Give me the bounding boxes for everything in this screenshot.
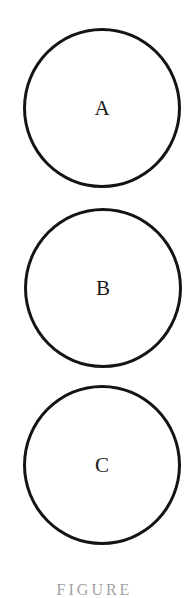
- circle-b: B: [24, 208, 182, 368]
- circle-label-a: A: [26, 98, 178, 119]
- circle-c: C: [23, 385, 181, 545]
- figure-caption: FIGURE: [0, 582, 189, 598]
- circle-label-c: C: [26, 455, 178, 476]
- circle-a: A: [23, 28, 181, 188]
- circle-label-b: B: [27, 278, 179, 299]
